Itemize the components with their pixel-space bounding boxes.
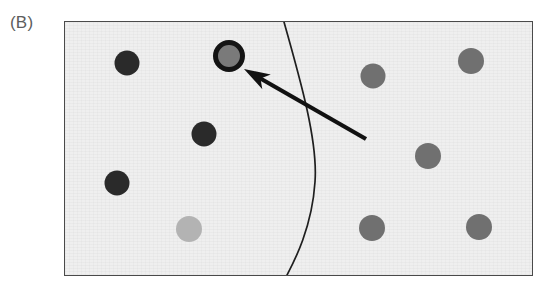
dot-grey-4	[359, 215, 385, 241]
dot-light-1	[176, 216, 202, 242]
scatter-plot-canvas	[65, 22, 533, 276]
dot-grey-2	[458, 48, 484, 74]
dot-dark-2	[192, 122, 217, 147]
figure-panel: (B)	[0, 0, 541, 290]
dot-grey-5	[466, 214, 492, 240]
pointer-arrow	[244, 69, 366, 139]
pointer-arrow-shaft	[258, 77, 366, 139]
dot-grey-3	[415, 143, 441, 169]
dot-dark-3	[105, 171, 130, 196]
scene-frame	[64, 21, 533, 276]
divider-curve	[284, 22, 315, 276]
pointer-arrow-head	[244, 69, 271, 89]
dot-grey-1	[361, 64, 386, 89]
dot-highlighted	[216, 43, 243, 70]
panel-label: (B)	[10, 13, 33, 33]
dot-dark-1	[115, 51, 140, 76]
